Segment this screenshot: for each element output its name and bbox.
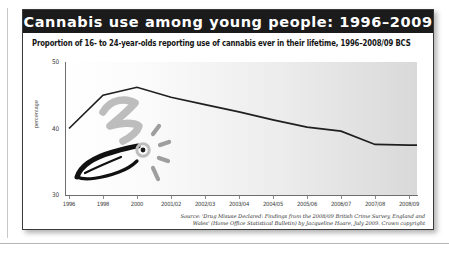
y-tick-label-50: 50: [37, 58, 59, 66]
page-bottom-rule: [0, 243, 449, 244]
x-tick-7: [307, 196, 308, 199]
x-tick-2: [137, 196, 138, 199]
page-title: Cannabis use among young people: 1996–20…: [23, 14, 432, 30]
x-tick-3: [171, 196, 172, 199]
chart-subtitle: Proportion of 16- to 24-year-olds report…: [32, 38, 400, 48]
source-note: Source: 'Drug Misuse Declared: Findings …: [173, 213, 425, 228]
x-tick-5: [239, 196, 240, 199]
x-tick-9: [375, 196, 376, 199]
x-tick-0: [69, 196, 70, 199]
x-tick-6: [273, 196, 274, 199]
x-tick-1: [103, 196, 104, 199]
x-tick-10: [409, 196, 410, 199]
x-tick-label-2008-09: 2008/09: [387, 201, 431, 207]
y-tick-label-30: 30: [37, 191, 59, 199]
x-axis-line: [65, 195, 418, 196]
x-tick-4: [205, 196, 206, 199]
chart-title-bar: Cannabis use among young people: 1996–20…: [23, 10, 433, 33]
page-left-rule: [7, 8, 8, 238]
chart-card: Cannabis use among young people: 1996–20…: [22, 9, 434, 230]
chart-area: percentage 50 40 30 1996 1998 2000: [23, 51, 435, 211]
series-line-cannabis: [69, 87, 417, 145]
series-plot: [65, 62, 417, 195]
y-axis-title: percentage: [33, 84, 39, 144]
x-tick-8: [341, 196, 342, 199]
page-root: Cannabis use among young people: 1996–20…: [0, 0, 449, 253]
y-tick-label-40: 40: [37, 125, 59, 133]
